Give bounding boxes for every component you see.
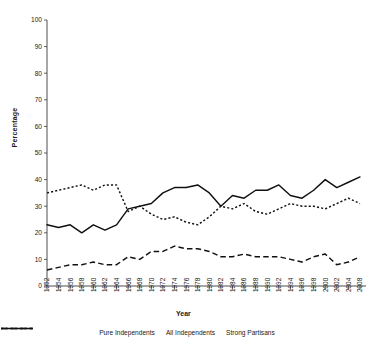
dotted-line-key [0, 325, 34, 332]
x-axis-tick-label: 1992 [275, 277, 282, 292]
x-axis-tick-label: 1988 [252, 277, 259, 292]
legend-label: Pure Independents [99, 329, 155, 336]
y-axis-tick-label: 40 [35, 176, 43, 183]
legend-item-strong-partisans[interactable]: Strong Partisans [226, 329, 275, 336]
x-axis-tick-label: 1952 [43, 277, 50, 292]
series-line-all-independents [47, 177, 360, 233]
legend-item-pure-independents[interactable]: Pure Independents [99, 329, 155, 336]
y-axis-tick-label: 100 [31, 16, 42, 23]
y-axis-tick-label: 80 [35, 70, 43, 77]
x-axis-tick-label: 1996 [298, 277, 305, 292]
x-axis-tick-label: 1978 [194, 277, 201, 292]
x-axis-tick-label: 2008 [356, 277, 363, 292]
x-axis-tick-label: 1994 [287, 277, 294, 292]
y-axis-tick-label: 0 [38, 282, 42, 289]
x-axis-tick-label: 1964 [113, 277, 120, 292]
x-axis-tick-label: 1986 [240, 277, 247, 292]
y-axis-tick-label: 50 [35, 149, 43, 156]
x-axis-tick-label: 2004 [345, 277, 352, 292]
x-axis-label: Year [176, 310, 191, 317]
series-line-pure-independents [47, 246, 360, 270]
x-axis-tick-label: 1970 [148, 277, 155, 292]
x-axis-tick-label: 1998 [310, 277, 317, 292]
x-axis-tick-label: 1984 [229, 277, 236, 292]
x-axis-tick-label: 1956 [67, 277, 74, 292]
chart-container: Percentage 01020304050607080901001952195… [0, 0, 374, 341]
legend-label: All Independents [166, 329, 215, 336]
y-axis-tick-label: 10 [35, 256, 43, 263]
x-axis-tick-label: 2002 [333, 277, 340, 292]
x-axis-tick-label: 1960 [90, 277, 97, 292]
y-axis-tick-label: 70 [35, 96, 43, 103]
x-axis-tick-label: 1962 [101, 277, 108, 292]
y-axis-tick-label: 60 [35, 123, 43, 130]
x-axis-tick-label: 1974 [171, 277, 178, 292]
y-axis-tick-label: 30 [35, 203, 43, 210]
y-axis-tick-label: 20 [35, 229, 43, 236]
x-axis-tick-label: 1954 [55, 277, 62, 292]
x-axis-tick-label: 1982 [217, 277, 224, 292]
x-axis-tick-label: 1976 [183, 277, 190, 292]
x-axis-tick-label: 1990 [264, 277, 271, 292]
chart-legend: Pure IndependentsAll IndependentsStrong … [0, 325, 374, 339]
x-axis-tick-label: 2000 [322, 277, 329, 292]
x-axis-tick-label: 1980 [206, 277, 213, 292]
x-axis-tick-label: 1968 [136, 277, 143, 292]
legend-label: Strong Partisans [226, 329, 275, 336]
x-axis-tick-label: 1966 [125, 277, 132, 292]
line-chart-plot: 0102030405060708090100195219541956195819… [0, 0, 374, 341]
x-axis-tick-label: 1972 [159, 277, 166, 292]
y-axis-tick-label: 90 [35, 43, 43, 50]
x-axis-tick-label: 1958 [78, 277, 85, 292]
legend-item-all-independents[interactable]: All Independents [166, 329, 215, 336]
